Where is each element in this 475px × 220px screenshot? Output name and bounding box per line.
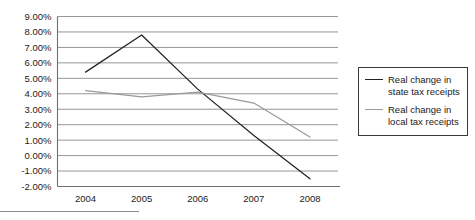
y-tick-label: 9.00% xyxy=(25,11,52,22)
y-tick-label: 2.00% xyxy=(25,119,52,130)
y-tick-label: 6.00% xyxy=(25,57,52,68)
series-lines xyxy=(86,35,310,179)
legend-label-state: Real change in state tax receipts xyxy=(388,74,460,97)
x-tick-label: 2005 xyxy=(131,193,152,204)
series-line xyxy=(86,91,310,137)
line-chart: 9.00%8.00%7.00%6.00%5.00%4.00%3.00%2.00%… xyxy=(0,0,475,220)
x-tick-label: 2006 xyxy=(187,193,208,204)
legend-item-local: Real change in local tax receipts xyxy=(364,104,459,127)
y-tick-label: 8.00% xyxy=(25,26,52,37)
x-tick-labels: 20042005200620072008 xyxy=(75,193,321,204)
footer-divider xyxy=(0,211,139,212)
y-tick-label: 3.00% xyxy=(25,104,52,115)
gridlines xyxy=(58,17,339,187)
y-tick-label: -2.00% xyxy=(21,181,52,192)
y-tick-label: 4.00% xyxy=(25,88,52,99)
legend-line-swatch-state xyxy=(364,74,384,85)
legend-line-swatch-local xyxy=(364,104,384,115)
chart-legend: Real change in state tax receipts Real c… xyxy=(358,67,468,136)
legend-label-local: Real change in local tax receipts xyxy=(388,104,459,127)
legend-item-state: Real change in state tax receipts xyxy=(364,74,460,97)
x-tick-label: 2008 xyxy=(299,193,320,204)
x-tick-label: 2004 xyxy=(75,193,96,204)
y-tick-label: 7.00% xyxy=(25,42,52,53)
y-tick-label: 0.00% xyxy=(25,150,52,161)
y-tick-label: 5.00% xyxy=(25,73,52,84)
series-line xyxy=(86,35,310,179)
x-tick-label: 2007 xyxy=(243,193,264,204)
y-tick-label: -1.00% xyxy=(21,165,52,176)
y-tick-label: 1.00% xyxy=(25,135,52,146)
y-tick-labels: 9.00%8.00%7.00%6.00%5.00%4.00%3.00%2.00%… xyxy=(21,11,52,192)
